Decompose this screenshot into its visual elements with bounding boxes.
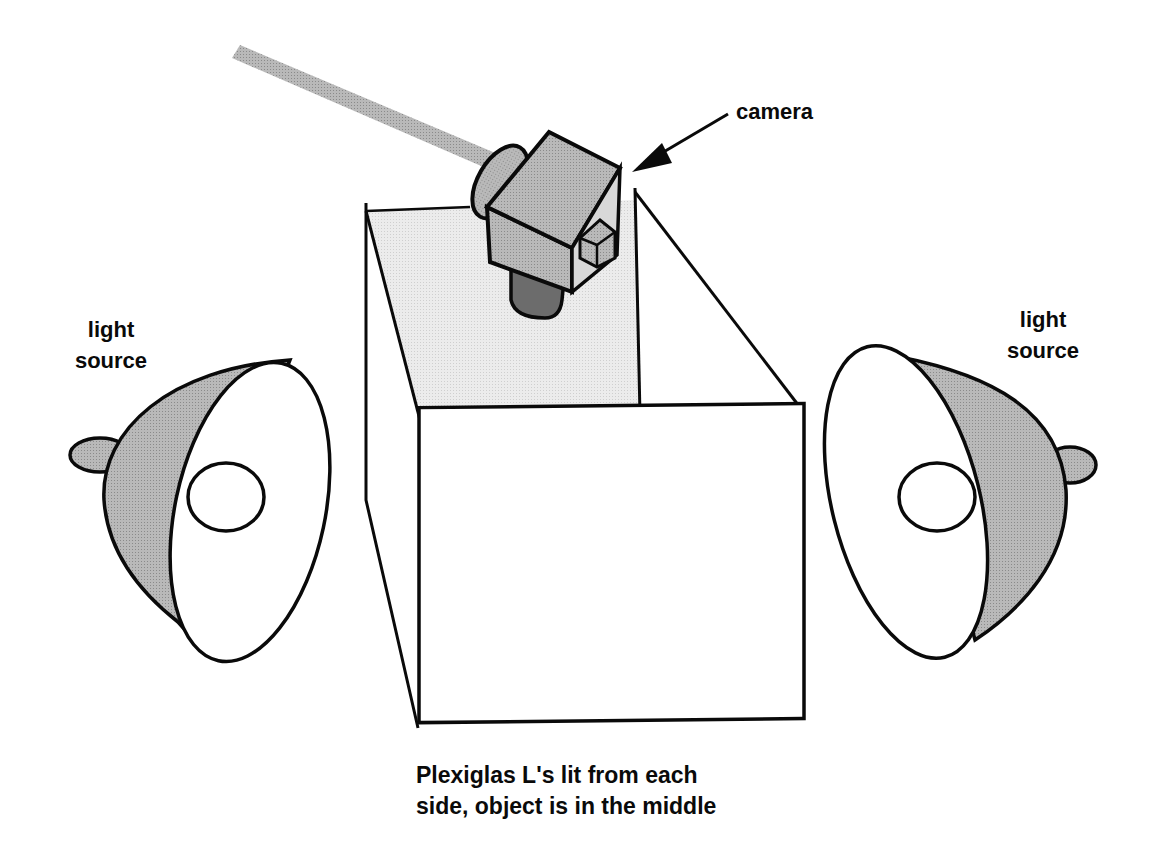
boom-arm <box>232 45 500 172</box>
setup-diagram <box>0 0 1155 850</box>
diagram-caption: Plexiglas L's lit from each side, object… <box>416 760 716 822</box>
left-light-source-icon <box>70 348 355 677</box>
pointer-arrow-icon <box>632 114 728 172</box>
right-light-source-icon <box>795 329 1096 675</box>
left-light-label: light source <box>66 314 156 376</box>
left-light-label-line2: source <box>66 345 156 376</box>
caption-line2: side, object is in the middle <box>416 791 716 822</box>
front-face <box>419 404 804 723</box>
left-light-label-line1: light <box>66 314 156 345</box>
right-light-label-line2: source <box>988 335 1098 366</box>
right-light-label: light source <box>988 304 1098 366</box>
caption-line1: Plexiglas L's lit from each <box>416 760 716 791</box>
camera-label-text: camera <box>736 96 813 127</box>
camera-label: camera <box>736 96 813 127</box>
right-light-label-line1: light <box>988 304 1098 335</box>
